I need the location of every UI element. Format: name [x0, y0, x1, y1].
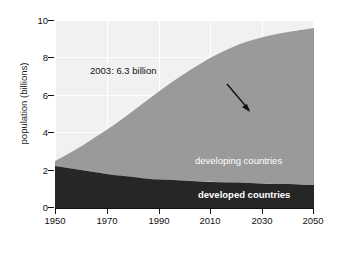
x-tick-mark-1970: [107, 209, 108, 214]
x-tick-label-1990: 1990: [139, 215, 179, 226]
y-tick-mark-4: [48, 132, 54, 133]
y-axis-label: population (billions): [18, 24, 29, 184]
x-axis-line: [55, 208, 314, 209]
area-label-developing: developing countries: [195, 155, 282, 166]
x-tick-label-1950: 1950: [35, 215, 75, 226]
y-tick-label-4: 4: [8, 127, 48, 138]
x-tick-label-1970: 1970: [87, 215, 127, 226]
y-tick-mark-8: [48, 57, 54, 58]
x-tick-label-2010: 2010: [190, 215, 230, 226]
y-tick-label-0: 0: [8, 202, 48, 213]
y-tick-label-10: 10: [8, 15, 48, 26]
x-tick-mark-2050: [313, 209, 314, 214]
x-tick-mark-1950: [55, 209, 56, 214]
chart-figure: population (billions) 10 8 6 4 2 0 devel…: [0, 0, 337, 253]
y-tick-mark-6: [48, 95, 54, 96]
cut-off-header-text: [56, 0, 316, 6]
stacked-area-series: [55, 20, 314, 208]
x-tick-mark-2030: [262, 209, 263, 214]
y-tick-label-2: 2: [8, 165, 48, 176]
x-tick-label-2030: 2030: [242, 215, 282, 226]
x-tick-mark-1990: [159, 209, 160, 214]
plot-area: developing countries developed countries…: [55, 20, 314, 208]
y-tick-label-8: 8: [8, 52, 48, 63]
area-label-developed: developed countries: [198, 189, 290, 200]
x-tick-mark-2010: [210, 209, 211, 214]
y-tick-label-6: 6: [8, 90, 48, 101]
y-tick-mark-10: [48, 20, 54, 21]
y-tick-mark-2: [48, 170, 54, 171]
x-tick-label-2050: 2050: [293, 215, 333, 226]
annotation-label-2003: 2003: 6.3 billion: [90, 65, 157, 76]
y-tick-mark-0: [48, 207, 54, 208]
annotation-arrow-icon: [225, 80, 259, 120]
